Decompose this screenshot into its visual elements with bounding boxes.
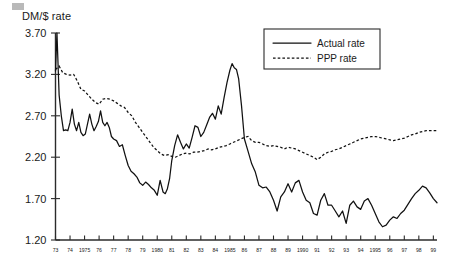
x-tick-label: 79 xyxy=(140,247,146,253)
x-tick-label: 84 xyxy=(213,247,219,253)
y-tick-label: 2.70 xyxy=(25,110,46,122)
y-tick-label: 2.20 xyxy=(25,151,46,163)
x-tick-label: 77 xyxy=(111,247,117,253)
legend-label: Actual rate xyxy=(317,38,365,49)
x-tick-label: 93 xyxy=(343,247,349,253)
y-axis-tick-group: 3.703.202.702.201.701.20 xyxy=(25,27,60,246)
x-tick-label: 89 xyxy=(285,247,291,253)
x-tick-label: 91 xyxy=(314,247,320,253)
x-tick-label: 1995 xyxy=(370,247,381,253)
y-tick-label: 3.70 xyxy=(25,27,46,39)
x-tick-label: 92 xyxy=(329,247,335,253)
x-tick-label: 76 xyxy=(96,247,102,253)
x-tick-label: 97 xyxy=(401,247,407,253)
x-tick-label: 1990 xyxy=(297,247,308,253)
x-tick-label: 81 xyxy=(169,247,175,253)
y-tick-label: 1.70 xyxy=(25,193,46,205)
x-tick-label: 74 xyxy=(67,247,73,253)
x-tick-label: 88 xyxy=(271,247,277,253)
x-tick-label: 1975 xyxy=(79,247,90,253)
x-tick-label: 73 xyxy=(53,247,59,253)
x-tick-label: 86 xyxy=(242,247,248,253)
x-tick-label: 78 xyxy=(125,247,131,253)
y-tick-label: 3.20 xyxy=(25,68,46,80)
x-tick-label: 94 xyxy=(358,247,364,253)
chart-legend: Actual ratePPP rate xyxy=(264,29,380,69)
x-tick-label: 96 xyxy=(387,247,393,253)
x-tick-label: 82 xyxy=(183,247,189,253)
legend-label: PPP rate xyxy=(317,53,357,64)
x-tick-label: 1980 xyxy=(152,247,163,253)
x-tick-label: 98 xyxy=(416,247,422,253)
plot-area: 3.703.202.702.201.701.20 737419757677787… xyxy=(0,0,454,268)
x-tick-label: 83 xyxy=(198,247,204,253)
x-tick-label: 1985 xyxy=(224,247,235,253)
chart-figure: DM/$ rate 3.703.202.702.201.701.20 73741… xyxy=(0,0,454,268)
x-tick-label: 99 xyxy=(431,247,437,253)
x-axis-tick-group: 7374197576777879198081828384198586878889… xyxy=(53,236,437,253)
x-tick-label: 87 xyxy=(256,247,262,253)
y-tick-label: 1.20 xyxy=(25,234,46,246)
